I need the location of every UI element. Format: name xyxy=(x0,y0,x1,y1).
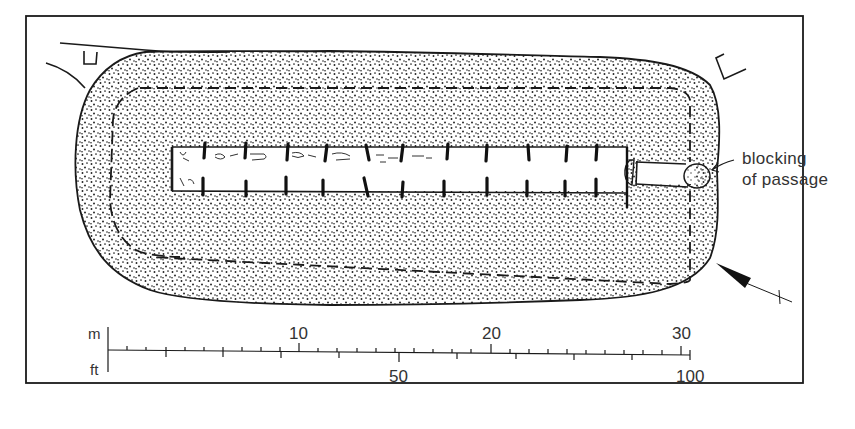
scale-imperial-label-50: 50 xyxy=(389,367,408,387)
blocking-of-passage xyxy=(684,164,710,188)
blocking-label-line1: blocking xyxy=(742,148,828,169)
scale-metric-label-30: 30 xyxy=(672,324,691,344)
scale-metric-ticks xyxy=(127,343,681,355)
site-plan-drawing xyxy=(0,0,855,429)
ditch-feature-ne-icon xyxy=(716,54,746,79)
scale-imperial-label-100: 100 xyxy=(676,367,704,387)
scale-unit-imperial: ft xyxy=(90,361,98,378)
blocking-label: blocking of passage xyxy=(742,148,828,190)
scale-metric-label-10: 10 xyxy=(289,324,308,344)
chamber-interior xyxy=(172,147,628,191)
scale-bar xyxy=(108,327,690,372)
north-arrow-icon xyxy=(716,263,792,304)
field-boundary-line-lower xyxy=(46,63,85,88)
scale-unit-metric: m xyxy=(88,325,101,342)
passage-inner-jamb xyxy=(636,161,637,186)
scale-metric-label-20: 20 xyxy=(482,324,501,344)
blocking-label-line2: of passage xyxy=(742,169,828,190)
ditch-feature-nw-icon xyxy=(84,51,97,64)
